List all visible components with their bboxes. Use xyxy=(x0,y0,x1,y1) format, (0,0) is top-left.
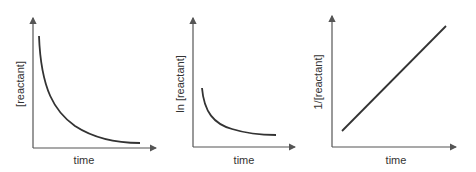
kinetics-charts: time [reactant] time ln [reactant] time … xyxy=(0,0,476,172)
linear-line xyxy=(342,26,446,131)
chart-reactant-vs-time: time [reactant] xyxy=(14,18,156,166)
x-axis-label: time xyxy=(386,154,407,166)
y-axis-label: 1/[reactant] xyxy=(312,54,324,109)
chart-inverse-reactant-vs-time: time 1/[reactant] xyxy=(312,16,456,166)
chart-ln-reactant-vs-time: time ln [reactant] xyxy=(174,18,295,166)
decay-curve xyxy=(39,36,140,143)
x-axis-label: time xyxy=(234,154,255,166)
y-axis-label: [reactant] xyxy=(14,61,26,107)
y-axis-label: ln [reactant] xyxy=(174,55,186,112)
decay-curve xyxy=(202,88,276,135)
x-axis-label: time xyxy=(74,154,95,166)
